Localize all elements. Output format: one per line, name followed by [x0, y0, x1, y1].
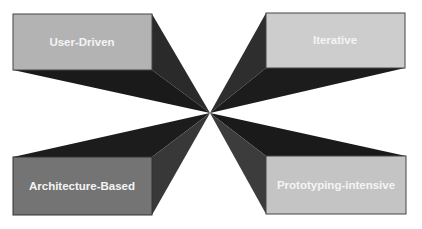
- label-architecture-based: Architecture-Based: [29, 180, 135, 192]
- label-iterative: Iterative: [313, 34, 357, 46]
- label-prototyping-intensive: Prototyping-intensive: [277, 179, 395, 191]
- box-prototyping-intensive: Prototyping-intensive: [210, 113, 406, 214]
- box-user-driven: User-Driven: [13, 14, 210, 113]
- label-user-driven: User-Driven: [49, 36, 114, 48]
- box-iterative: Iterative: [210, 13, 405, 113]
- box-architecture-based: Architecture-Based: [13, 113, 210, 215]
- diagram-canvas: User-Driven Iterative Architecture-Based…: [0, 0, 422, 229]
